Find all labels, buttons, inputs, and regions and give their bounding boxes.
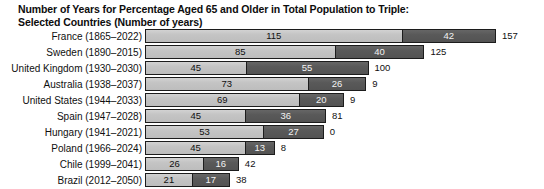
bar-row: United States (1944–2033)69209 — [0, 93, 544, 108]
bar-segment-second-value: 20 — [316, 95, 327, 105]
bar-segment-first: 45 — [146, 62, 246, 74]
bar-segment-second-value: 27 — [288, 127, 299, 137]
stacked-bar: 4555 — [145, 61, 369, 75]
bar-segment-second: 20 — [299, 94, 343, 106]
stacked-bar: 2616 — [145, 157, 239, 171]
bar-segment-first: 85 — [146, 46, 335, 58]
bar-row-label: Sweden (1890–2015) — [0, 46, 142, 59]
bar-segment-second: 27 — [263, 126, 323, 138]
bar-row-label: Spain (1947–2028) — [0, 110, 142, 123]
bar-segment-first-value: 85 — [235, 47, 246, 57]
bar-row-label: United Kingdom (1930–2030) — [0, 62, 142, 75]
bar-row-label: France (1865–2022) — [0, 30, 142, 43]
stacked-bar: 7326 — [145, 77, 366, 91]
bar-segment-first-value: 115 — [266, 31, 281, 41]
bar-row: Spain (1947–2028)453681 — [0, 109, 544, 124]
chart-figure: Number of Years for Percentage Aged 65 a… — [0, 0, 544, 189]
bar-segment-first-value: 45 — [190, 111, 201, 121]
bar-row: Australia (1938–2037)73269 — [0, 77, 544, 92]
bar-row: France (1865–2022)11542157 — [0, 29, 544, 44]
bar-segment-second-value: 55 — [302, 63, 313, 73]
bar-segment-second-value: 42 — [443, 31, 454, 41]
bar-segment-second-value: 16 — [216, 159, 227, 169]
stacked-bar: 11542 — [145, 29, 496, 43]
bar-row: Brazil (2012–2050)211738 — [0, 173, 544, 188]
bar-total-value: 157 — [502, 30, 518, 42]
bar-segment-first-value: 21 — [164, 175, 175, 185]
bar-total-value: 38 — [236, 174, 247, 186]
bar-row-label: Chile (1999–2041) — [0, 158, 142, 171]
bar-segment-first-value: 69 — [217, 95, 228, 105]
bar-total-value: 0 — [330, 126, 335, 138]
bar-segment-second-value: 26 — [332, 79, 343, 89]
bar-row-label: Poland (1966–2024) — [0, 142, 142, 155]
bar-segment-second: 26 — [308, 78, 366, 90]
chart-title-line-2: Selected Countries (Number of years) — [18, 16, 528, 29]
bar-row: Hungary (1941–2021)53270 — [0, 125, 544, 140]
bar-segment-second-value: 36 — [280, 111, 291, 121]
bar-row-label: Hungary (1941–2021) — [0, 126, 142, 139]
bar-total-value: 81 — [332, 110, 343, 122]
bar-total-value: 100 — [375, 62, 391, 74]
bar-segment-first-value: 73 — [222, 79, 233, 89]
bar-total-value: 8 — [281, 142, 286, 154]
chart-plot-area: France (1865–2022)11542157Sweden (1890–2… — [0, 29, 544, 189]
bar-segment-second: 16 — [203, 158, 238, 170]
chart-title: Number of Years for Percentage Aged 65 a… — [18, 3, 528, 28]
chart-title-line-1: Number of Years for Percentage Aged 65 a… — [18, 3, 528, 16]
bar-total-value: 42 — [245, 158, 256, 170]
bar-row-label: United States (1944–2033) — [0, 94, 142, 107]
bar-segment-second: 40 — [335, 46, 424, 58]
stacked-bar: 6920 — [145, 93, 344, 107]
bar-row-label: Brazil (2012–2050) — [0, 174, 142, 187]
bar-row: Poland (1966–2024)45138 — [0, 141, 544, 156]
bar-total-value: 125 — [430, 46, 446, 58]
bar-row: Chile (1999–2041)261642 — [0, 157, 544, 172]
bar-segment-first: 69 — [146, 94, 299, 106]
bar-segment-first: 45 — [146, 142, 245, 154]
bar-segment-first: 115 — [146, 30, 402, 42]
bar-segment-second-value: 40 — [374, 47, 385, 57]
bar-total-value: 9 — [350, 94, 355, 106]
bar-segment-first: 45 — [146, 110, 245, 122]
bar-segment-first: 53 — [146, 126, 263, 138]
bar-row: United Kingdom (1930–2030)4555100 — [0, 61, 544, 76]
bar-segment-second: 36 — [245, 110, 325, 122]
bar-total-value: 9 — [372, 78, 377, 90]
bar-segment-first-value: 45 — [191, 63, 202, 73]
stacked-bar: 5327 — [145, 125, 324, 139]
bar-segment-first-value: 53 — [199, 127, 210, 137]
bar-row-label: Australia (1938–2037) — [0, 78, 142, 91]
bar-row: Sweden (1890–2015)8540125 — [0, 45, 544, 60]
bar-segment-first-value: 26 — [169, 159, 180, 169]
bar-segment-first: 21 — [146, 174, 192, 186]
bar-segment-first: 73 — [146, 78, 308, 90]
stacked-bar: 4536 — [145, 109, 326, 123]
stacked-bar: 4513 — [145, 141, 275, 155]
bar-segment-second: 13 — [245, 142, 274, 154]
bar-segment-first: 26 — [146, 158, 203, 170]
bar-segment-first-value: 45 — [190, 143, 201, 153]
bar-segment-second: 55 — [246, 62, 368, 74]
stacked-bar: 2117 — [145, 173, 230, 187]
stacked-bar: 8540 — [145, 45, 424, 59]
bar-segment-second: 17 — [192, 174, 229, 186]
bar-segment-second: 42 — [402, 30, 495, 42]
bar-segment-second-value: 17 — [206, 175, 217, 185]
bar-segment-second-value: 13 — [255, 143, 266, 153]
